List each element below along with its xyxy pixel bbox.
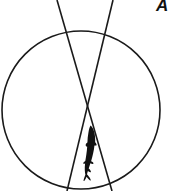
panel-label-a: A (156, 0, 168, 14)
diagram-canvas (0, 0, 173, 191)
figure-panel: A (0, 0, 173, 191)
